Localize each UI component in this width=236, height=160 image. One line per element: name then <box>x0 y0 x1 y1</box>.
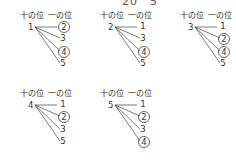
branch-lines <box>20 87 86 153</box>
branch-lines <box>20 9 86 75</box>
branch-lines <box>100 9 166 75</box>
tree-diagram-tens-4: 十の位一の位41235 <box>20 87 86 153</box>
branch-lines <box>100 87 166 153</box>
cut-off-heading: 20 5 <box>122 0 158 8</box>
tree-diagram-tens-2: 十の位一の位21345 <box>100 9 166 75</box>
branch-lines <box>180 9 236 75</box>
tree-diagram-tens-1: 十の位一の位12345 <box>20 9 86 75</box>
tree-diagram-tens-5: 十の位一の位51234 <box>100 87 166 153</box>
tree-diagram-tens-3: 十の位一の位31245 <box>180 9 236 75</box>
